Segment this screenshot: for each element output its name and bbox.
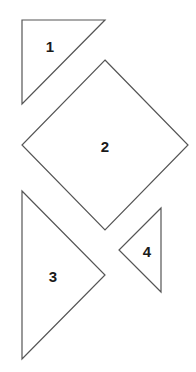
piece-2: 2 — [22, 60, 188, 230]
piece-label-4: 4 — [143, 243, 152, 260]
piece-4: 4 — [119, 208, 161, 292]
piece-label-3: 3 — [49, 268, 57, 285]
tangram-pieces-diagram: 1 2 3 4 — [0, 0, 196, 372]
piece-label-1: 1 — [46, 38, 54, 55]
piece-label-2: 2 — [101, 138, 109, 155]
triangle-shape-4 — [119, 208, 161, 292]
